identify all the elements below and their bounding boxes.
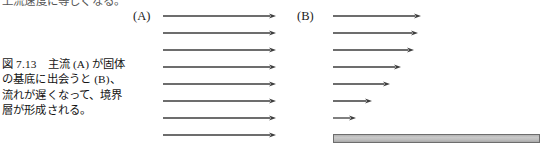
- arrow-head-icon: [269, 31, 276, 36]
- flow-arrow-b-2: [333, 31, 418, 36]
- arrow-head-icon: [269, 14, 276, 19]
- arrow-head-icon: [269, 99, 276, 104]
- arrow-head-icon: [383, 82, 390, 87]
- panel-label-a: (A): [133, 9, 150, 23]
- arrow-head-icon: [269, 65, 276, 70]
- caption-line-3: 流れが遅くなって、境界: [2, 88, 130, 103]
- arrow-head-icon: [269, 133, 276, 138]
- flow-arrow-b-3: [333, 48, 414, 53]
- caption-line-4: 層が形成される。: [2, 103, 130, 118]
- flow-arrow-b-1: [333, 14, 421, 19]
- flow-arrow-a-7: [163, 116, 276, 121]
- flow-arrow-b-6: [333, 99, 372, 104]
- flow-arrow-a-4: [163, 65, 276, 70]
- figure-caption: 図 7.13 主流 (A) が固体 の基底に出会うと (B)、 流れが遅くなって…: [2, 57, 130, 119]
- flow-arrow-a-2: [163, 31, 276, 36]
- flow-arrow-b-7: [333, 116, 356, 121]
- flow-arrow-a-5: [163, 82, 276, 87]
- figure-container: 上流速度に等しくなる。 図 7.13 主流 (A) が固体 の基底に出会うと (…: [0, 0, 545, 149]
- caption-line-1: 図 7.13 主流 (A) が固体: [2, 57, 130, 72]
- arrow-head-icon: [411, 31, 418, 36]
- panel-label-b: (B): [297, 9, 314, 23]
- preceding-body-text: 上流速度に等しくなる。: [2, 0, 142, 8]
- arrow-head-icon: [269, 116, 276, 121]
- arrow-head-icon: [269, 82, 276, 87]
- arrow-head-icon: [394, 65, 401, 70]
- flow-arrow-b-5: [333, 82, 390, 87]
- arrow-head-icon: [414, 14, 421, 19]
- flow-arrow-a-8: [163, 133, 276, 138]
- arrow-head-icon: [407, 48, 414, 53]
- flow-arrow-a-3: [163, 48, 276, 53]
- solid-plate: [333, 134, 540, 143]
- arrow-head-icon: [269, 48, 276, 53]
- arrow-head-icon: [349, 116, 356, 121]
- flow-arrow-a-1: [163, 14, 276, 19]
- flow-arrow-a-6: [163, 99, 276, 104]
- arrow-head-icon: [365, 99, 372, 104]
- flow-arrow-b-4: [333, 65, 401, 70]
- caption-line-2: の基底に出会うと (B)、: [2, 72, 130, 87]
